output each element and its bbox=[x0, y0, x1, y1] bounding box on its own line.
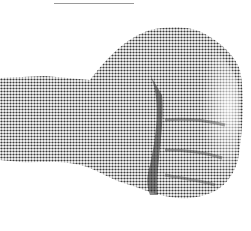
fist-halftone-image bbox=[0, 0, 251, 231]
